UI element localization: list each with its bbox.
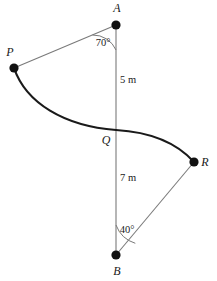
point-label-A: A	[112, 1, 121, 15]
geometry-diagram: A P Q R B 5 m 7 m 70° 40°	[0, 0, 217, 281]
angle-label-at-B: 40°	[120, 224, 135, 235]
point-marker-P	[9, 63, 18, 72]
point-label-R: R	[200, 155, 209, 169]
point-label-P: P	[5, 45, 14, 59]
diagram-canvas: A P Q R B 5 m 7 m 70° 40°	[0, 0, 217, 281]
point-marker-B	[111, 250, 120, 259]
point-marker-A	[111, 20, 120, 29]
angle-label-at-A: 70°	[96, 37, 111, 48]
dimension-label-AQ: 5 m	[120, 74, 136, 85]
point-marker-R	[189, 157, 198, 166]
point-label-B: B	[113, 264, 121, 278]
point-label-Q: Q	[102, 133, 111, 147]
dimension-label-QB: 7 m	[120, 172, 136, 183]
reverse-curve-PQR	[14, 68, 194, 162]
